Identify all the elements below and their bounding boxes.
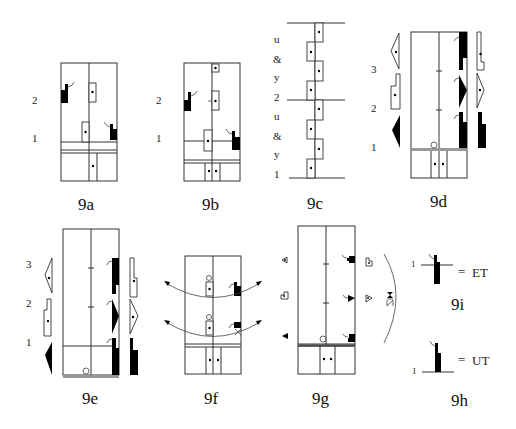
floor-label-1: 1 [371,141,377,153]
caption: 9b [202,195,219,214]
caption: 9i [451,295,465,314]
floor-label-3: 3 [26,258,32,270]
et-stair-icon [61,84,68,103]
et-stair-icon [184,92,191,111]
caption: 9c [307,194,324,213]
filled-triangle-icon [348,295,355,302]
figure-9g: 9g [281,226,396,408]
et-stair-icon [110,124,117,140]
floor-label-2: 2 [371,102,377,114]
side-label: y [274,71,280,83]
ut-stair-icon [130,338,138,375]
figure-9d: 3 2 1 9d [371,32,486,211]
figure-9c: u & y 2 u & y 1 9c [273,23,345,213]
level-label: 1 [412,366,417,376]
equals-sign: = [458,264,465,279]
et-stair-icon [347,256,355,263]
side-label: 2 [274,91,280,103]
filled-triangle-icon [392,115,400,148]
side-label: 1 [274,168,280,180]
legend-term: UT [472,353,489,368]
et-stair-icon [459,112,467,148]
caption: 9d [430,192,448,211]
caption: 9a [78,195,95,214]
figure-9f: 9f [164,256,262,408]
level-label: 1 [411,259,416,269]
caption: 9h [451,391,469,410]
caption: 9e [82,389,98,408]
figure-9e: 3 2 1 9e [26,229,138,408]
side-label: & [273,53,282,65]
et-stair-icon [112,338,119,375]
equals-sign: = [458,352,465,367]
hourglass-icon [387,292,393,298]
filled-triangle-icon [45,342,52,375]
figure-9a: 2 1 9a [32,63,117,214]
floor-label-1: 1 [156,132,162,144]
floor-label-1: 1 [26,336,32,348]
side-label: u [274,110,280,122]
ut-stair-icon [435,343,441,372]
floor-label-3: 3 [371,63,377,75]
floor-label-2: 2 [32,94,38,106]
diagram-canvas: 2 1 9a 2 1 9b [0,0,516,429]
et-stair-icon [234,322,241,328]
caption: 9f [204,389,219,408]
et-stair-icon [112,258,119,294]
side-label: y [274,148,280,160]
floor-label-2: 2 [156,94,162,106]
et-stair-icon [232,131,240,150]
floor-label-2: 2 [26,297,32,309]
filled-triangle-icon [459,75,467,108]
side-label: & [273,130,282,142]
et-stair-icon [459,32,467,70]
filled-triangle-icon [112,299,119,334]
caption: 9g [312,389,330,408]
et-stair-icon [348,334,355,342]
et-stair-icon [434,255,440,284]
filled-triangle-icon [282,333,288,339]
ut-stair-icon [478,112,486,148]
legend-et: 1 = ET 9i [411,254,488,314]
floor-label-1: 1 [32,132,38,144]
legend-term: ET [472,265,488,280]
figure-9b: 2 1 9b [156,63,240,214]
side-label: u [274,33,280,45]
legend-ut: 1 = UT 9h [412,341,489,410]
